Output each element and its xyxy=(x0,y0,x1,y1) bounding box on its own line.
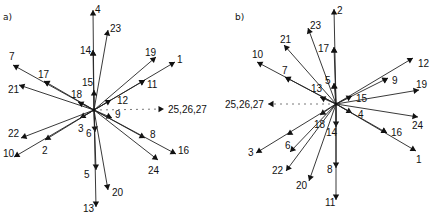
vector-label: 13 xyxy=(83,203,95,214)
vector-label: 22 xyxy=(272,165,284,176)
arrow-head-icon xyxy=(331,47,337,53)
vector-11: 11 xyxy=(325,104,339,208)
vector-label: 21 xyxy=(8,84,20,95)
arrow-head-icon xyxy=(331,83,337,89)
dashed-vector-25-26-27: 25,26,27 xyxy=(225,99,336,110)
panel-label-b: b) xyxy=(235,12,244,22)
vector-label: 7 xyxy=(282,65,288,76)
vector-label: 3 xyxy=(248,147,254,158)
panel-b: b) 2231752110713129191542416118314811622… xyxy=(225,5,430,208)
vector-label: 11 xyxy=(325,197,336,208)
vector-label: 2 xyxy=(42,145,48,156)
vector-label: 24 xyxy=(148,165,160,176)
vector-label: 22 xyxy=(8,128,20,139)
vector-label: 9 xyxy=(115,109,121,120)
vector-label: 18 xyxy=(71,89,83,100)
vector-8: 8 xyxy=(327,104,339,175)
vector-label: 3 xyxy=(78,123,84,134)
vector-1: 1 xyxy=(336,104,422,165)
vector-label: 10 xyxy=(3,148,15,159)
arrow-head-icon xyxy=(91,90,97,96)
vector-label: 21 xyxy=(280,34,292,45)
vector-label: 12 xyxy=(418,58,430,69)
vector-label: 19 xyxy=(416,79,428,90)
vector-label: 13 xyxy=(311,83,323,94)
vector-5: 5 xyxy=(84,110,99,180)
vector-2: 2 xyxy=(331,5,343,104)
vector-label: 6 xyxy=(285,140,291,151)
vector-label: 9 xyxy=(392,75,398,86)
vector-12: 12 xyxy=(94,95,129,110)
vector-9: 9 xyxy=(94,109,121,120)
vector-label: 5 xyxy=(84,169,90,180)
vector-diagram: a) 4231415191111271721189816243222106513… xyxy=(0,0,432,217)
panel-label-a: a) xyxy=(3,12,12,22)
vector-label: 20 xyxy=(296,180,308,191)
vector-label: 2 xyxy=(337,5,343,16)
arrow-head-icon xyxy=(286,165,292,171)
vector-label: 6 xyxy=(86,128,92,139)
arrow-head-icon xyxy=(93,164,99,170)
origin-point xyxy=(93,109,96,112)
arrow-head-icon xyxy=(104,184,110,190)
vector-label: 10 xyxy=(252,49,264,60)
vector-label: 11 xyxy=(147,79,158,90)
arrow-head-icon xyxy=(158,106,164,112)
vector-24: 24 xyxy=(336,104,424,131)
vector-19: 19 xyxy=(336,79,428,104)
vector-17: 17 xyxy=(38,69,94,110)
arrow-head-icon xyxy=(268,101,274,107)
vector-label: 5 xyxy=(325,75,331,86)
origin-point xyxy=(335,103,338,106)
vector-label: 15 xyxy=(82,77,94,88)
dashed-vector-label: 25,26,27 xyxy=(225,99,264,110)
panel-a: a) 4231415191111271721189816243222106513… xyxy=(3,4,207,214)
dashed-vector-label: 25,26,27 xyxy=(168,104,207,115)
arrow-head-icon xyxy=(412,113,418,119)
vector-label: 17 xyxy=(318,43,330,54)
vector-label: 23 xyxy=(110,23,122,34)
vector-label: 8 xyxy=(327,164,333,175)
vector-label: 15 xyxy=(356,93,368,104)
vector-label: 1 xyxy=(416,154,422,165)
vector-label: 19 xyxy=(145,47,157,58)
vector-label: 4 xyxy=(95,4,101,15)
vector-label: 16 xyxy=(391,127,403,138)
vector-label: 1 xyxy=(177,54,183,65)
dashed-vector-25-26-27: 25,26,27 xyxy=(94,104,207,115)
vector-10: 10 xyxy=(252,49,336,104)
vector-label: 16 xyxy=(178,145,190,156)
vector-label: 24 xyxy=(412,120,424,131)
vector-18: 18 xyxy=(71,89,94,110)
vector-label: 7 xyxy=(9,51,15,62)
vector-label: 20 xyxy=(112,187,124,198)
vector-label: 12 xyxy=(117,95,129,106)
vector-label: 23 xyxy=(310,20,322,31)
vector-label: 14 xyxy=(80,45,92,56)
arrow-head-icon xyxy=(152,154,158,160)
vector-label: 8 xyxy=(150,129,156,140)
vector-20: 20 xyxy=(296,104,336,191)
vector-label: 17 xyxy=(38,69,50,80)
